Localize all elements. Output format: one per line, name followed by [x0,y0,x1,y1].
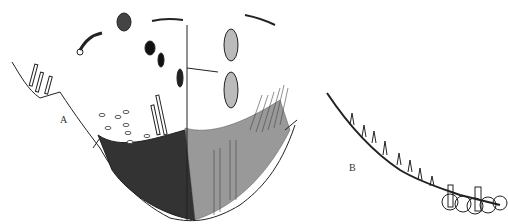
figure-canvas: A B [0,0,508,224]
panel-label-a: A [60,114,67,125]
illustration [0,0,508,224]
panel-label-b: B [349,162,356,173]
panel-a-drawing [12,13,297,221]
panel-b-drawing [327,93,507,214]
